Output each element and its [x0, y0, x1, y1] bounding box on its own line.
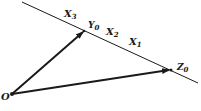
label-origin: O — [1, 91, 10, 102]
point-y0 — [83, 30, 86, 33]
point-origin — [10, 92, 14, 96]
label-x3: X3 — [63, 8, 77, 21]
label-x1: X1 — [128, 36, 142, 49]
label-z0: Z0 — [176, 62, 189, 74]
label-y0: Y0 — [88, 20, 99, 32]
label-x2: X2 — [105, 26, 119, 39]
point-z0 — [170, 69, 173, 72]
vector-diagram: X3 Y0 X2 X1 Z0 O — [0, 0, 201, 111]
